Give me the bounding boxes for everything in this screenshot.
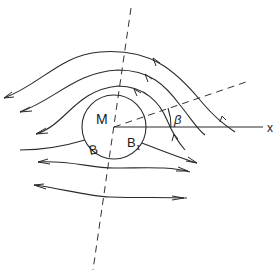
dashed-axis-vertical [93,8,131,270]
streamline-b1-out [142,143,197,163]
diagram-canvas: M B B 1 β x [0,0,279,277]
streamline-left-to-b [20,140,85,150]
diagram-svg: M B B 1 β x [0,0,279,277]
arrow-icon [36,128,48,134]
label-beta: β [173,112,182,127]
label-m: M [96,111,108,127]
arrow-icon [145,74,152,82]
label-b: B [87,141,99,157]
streamline-bottom-1 [38,162,190,172]
label-b1-subscript: 1 [136,143,141,152]
streamline-bottom-2 [34,185,187,198]
streamline-top-1 [4,52,235,132]
label-x-axis: x [267,121,273,135]
label-b1: B [127,135,136,150]
